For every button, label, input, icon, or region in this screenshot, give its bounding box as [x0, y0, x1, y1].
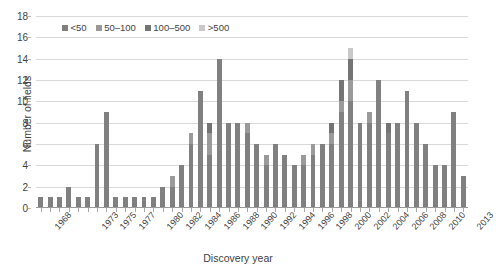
x-tick-label: 1998 [334, 210, 355, 232]
bar-segment [348, 59, 353, 80]
y-tick-label: 16 [17, 32, 28, 43]
bar-segment [348, 80, 353, 101]
bar [292, 165, 297, 208]
legend-label: 100–500 [153, 22, 190, 33]
x-tick-label: 1982 [184, 210, 205, 232]
legend-item: <50 [62, 22, 87, 33]
bar-segment [189, 144, 194, 208]
y-tickmark [28, 80, 31, 81]
bar [461, 176, 466, 208]
bar-segment [395, 123, 400, 208]
bar-segment [292, 165, 297, 208]
y-axis-tick-labels: 024681012141618 [0, 16, 32, 208]
x-tick-label: 1990 [259, 210, 280, 232]
x-tick-label: 2006 [409, 210, 430, 232]
bar-segment [207, 123, 212, 134]
bar-segment [367, 112, 372, 123]
bar [358, 123, 363, 208]
y-tick-label: 10 [17, 96, 28, 107]
bar-segment [301, 165, 306, 208]
y-tickmark [28, 165, 31, 166]
x-tick-label: 2002 [372, 210, 393, 232]
x-tick-label: 1980 [165, 210, 186, 232]
bar-segment [189, 133, 194, 144]
bar-segment [95, 144, 100, 208]
x-tick-label: 2008 [428, 210, 449, 232]
bar [433, 165, 438, 208]
bar-segment [405, 91, 410, 208]
bar-segment [367, 123, 372, 208]
bar-segment [311, 144, 316, 155]
bar [189, 133, 194, 208]
bar-segment [329, 123, 334, 134]
x-tick-label: 1986 [221, 210, 242, 232]
bar [301, 155, 306, 208]
bar [264, 155, 269, 208]
bar [66, 187, 71, 208]
bar [423, 144, 428, 208]
y-tickmark [28, 16, 31, 17]
x-tick-label: 1975 [118, 210, 139, 232]
plot-area [36, 16, 468, 208]
legend-item: >500 [199, 22, 229, 33]
bar [442, 165, 447, 208]
bar [451, 112, 456, 208]
bar [320, 144, 325, 208]
bar-segment [339, 112, 344, 208]
bar [339, 80, 344, 208]
bar [395, 123, 400, 208]
x-tick-label: 1968 [52, 210, 73, 232]
bar [207, 123, 212, 208]
y-tickmark [28, 59, 31, 60]
x-tick-label: 1973 [99, 210, 120, 232]
bar-segment [207, 155, 212, 208]
x-tick-label: 1988 [240, 210, 261, 232]
bar [311, 144, 316, 208]
bar [282, 155, 287, 208]
x-tick-label: 1994 [296, 210, 317, 232]
bar-segment [386, 123, 391, 134]
bar-segment [329, 144, 334, 208]
legend-label: >500 [208, 22, 229, 33]
bar-segment [104, 112, 109, 208]
bar-segment [245, 133, 250, 208]
x-tick-label: 1996 [315, 210, 336, 232]
bar [95, 144, 100, 208]
y-tick-label: 12 [17, 75, 28, 86]
bar-segment [235, 123, 240, 208]
bar-segment [339, 80, 344, 101]
bar [376, 80, 381, 208]
bar-segment [311, 155, 316, 208]
bar [198, 91, 203, 208]
bar [405, 91, 410, 208]
x-axis-tick-labels: 1968197319751977198019821984198619881990… [36, 210, 468, 252]
legend-item: 100–500 [145, 22, 190, 33]
legend-label: 50–100 [104, 22, 136, 33]
bar-segment [245, 123, 250, 134]
bar-segment [170, 176, 175, 187]
bar-segment [273, 144, 278, 208]
x-tick-label: 2004 [390, 210, 411, 232]
bar-segment [66, 187, 71, 208]
bar-segment [207, 133, 212, 154]
bar-segment [282, 155, 287, 208]
bar-segment [226, 123, 231, 208]
bar-segment [160, 187, 165, 208]
y-tick-label: 14 [17, 53, 28, 64]
bar-segment [442, 165, 447, 208]
bar [179, 165, 184, 208]
bar-segment [376, 80, 381, 208]
x-tick-label: 2013 [475, 210, 496, 232]
x-axis-title: Discovery year [0, 252, 476, 264]
bar-segment [254, 144, 259, 208]
x-tick-label: 2010 [447, 210, 468, 232]
bar [217, 59, 222, 208]
legend-swatch-icon [96, 25, 102, 31]
y-tickmark [28, 187, 31, 188]
y-tickmark [28, 37, 31, 38]
legend-swatch-icon [62, 25, 68, 31]
y-tick-label: 18 [17, 11, 28, 22]
bar-segment [386, 133, 391, 208]
bar [273, 144, 278, 208]
bar-segment [320, 144, 325, 208]
